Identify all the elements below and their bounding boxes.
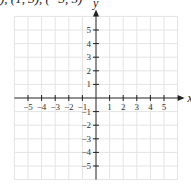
x-tick-label: 1	[107, 102, 112, 112]
y-axis-label: y	[92, 0, 99, 10]
coordinate-plane: ), (1, 3), (−3, 5) xy−5−4−3−2−1123455432…	[0, 0, 191, 185]
x-tick-label: 5	[162, 102, 167, 112]
x-axis-arrow-icon	[178, 95, 185, 101]
y-tick-label: −5	[81, 161, 91, 171]
y-tick-label: −3	[81, 134, 91, 144]
graph-grid: xy−5−4−3−2−11234554321−1−2−3−4−5	[0, 0, 191, 185]
y-tick-label: −1	[81, 107, 91, 117]
y-tick-label: −4	[81, 147, 91, 157]
y-tick-label: −2	[81, 120, 91, 130]
x-tick-label: 3	[135, 102, 140, 112]
x-tick-label: 2	[121, 102, 126, 112]
y-tick-label: 4	[87, 39, 92, 49]
y-tick-label: 2	[87, 66, 92, 76]
x-tick-label: −2	[64, 102, 74, 112]
x-tick-label: −5	[23, 102, 33, 112]
x-tick-label: −4	[37, 102, 47, 112]
x-tick-label: −3	[50, 102, 60, 112]
y-tick-label: 1	[87, 79, 92, 89]
y-axis-arrow-icon	[93, 9, 99, 16]
y-tick-label: 3	[87, 52, 92, 62]
x-axis-label: x	[187, 91, 191, 105]
x-tick-label: 4	[148, 102, 153, 112]
y-tick-label: 5	[87, 25, 92, 35]
